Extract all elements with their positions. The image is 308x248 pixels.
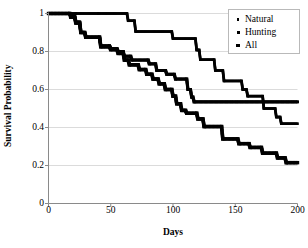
survival-probability-chart: Survival Probability Days 00.20.40.60.81… (0, 0, 307, 248)
x-tick-label: 100 (159, 206, 187, 216)
legend-label-all: All (243, 39, 257, 52)
y-tick-label: 0.6 (18, 85, 44, 95)
legend-item-hunting: Hunting (233, 26, 297, 39)
legend-label-natural: Natural (243, 13, 274, 26)
legend-item-natural: Natural (233, 13, 297, 26)
y-tick-label: 0.8 (18, 47, 44, 57)
x-tick-label: 150 (221, 206, 249, 216)
x-tick-label: 50 (97, 206, 125, 216)
small-square-marker-icon (233, 18, 243, 21)
large-triangle-marker-icon (233, 44, 243, 48)
x-tick-label: 200 (284, 206, 308, 216)
x-tick-label: 0 (35, 206, 63, 216)
y-tick-label: 0.2 (18, 161, 44, 171)
legend-label-hunting: Hunting (243, 26, 276, 39)
y-tick-label: 1 (18, 9, 44, 19)
legend: Natural Hunting All (228, 9, 300, 54)
x-axis-title: Days (48, 228, 298, 238)
medium-square-marker-icon (233, 31, 243, 34)
y-axis-title: Survival Probability (1, 18, 17, 193)
y-tick-label: 0.4 (18, 123, 44, 133)
legend-item-all: All (233, 39, 297, 52)
